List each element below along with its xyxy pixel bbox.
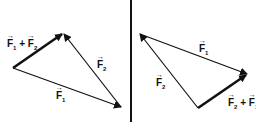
right-f1-label: F1 <box>199 44 208 56</box>
left-sum-label: F1 + F2 <box>7 39 37 51</box>
left-f1-label: F1 <box>56 91 65 103</box>
vector-diagram <box>0 0 256 126</box>
right-f2-label: F2 <box>156 78 165 90</box>
left-f1-arrow <box>13 68 121 107</box>
left-f2-label: F2 <box>97 60 106 72</box>
right-sum-label: F2 + F1 <box>228 98 256 110</box>
left-f2-arrow <box>64 34 121 107</box>
